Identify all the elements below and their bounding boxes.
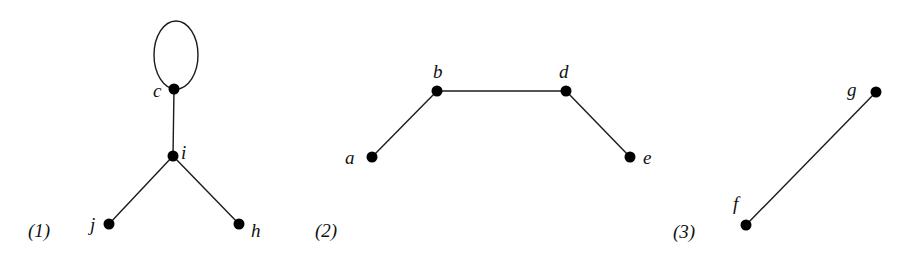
graph-1: c i j h (1) bbox=[28, 21, 261, 242]
node-label-d: d bbox=[559, 61, 569, 82]
edge-i-h bbox=[173, 156, 239, 224]
graph-label-2: (2) bbox=[315, 220, 337, 242]
node-label-f: f bbox=[733, 193, 741, 214]
edge-a-b bbox=[372, 91, 437, 157]
node-label-h: h bbox=[251, 220, 261, 241]
node-j bbox=[104, 219, 115, 230]
node-label-j: j bbox=[87, 214, 95, 235]
edge-f-g bbox=[746, 92, 876, 225]
node-a bbox=[367, 152, 378, 163]
node-label-i: i bbox=[181, 142, 186, 163]
node-label-e: e bbox=[643, 147, 651, 168]
edge-d-e bbox=[566, 91, 630, 157]
graph-diagram: c i j h (1) a b d e (2) f g (3) bbox=[0, 0, 905, 259]
edge-c-c-loop bbox=[154, 21, 198, 89]
graph-label-1: (1) bbox=[28, 220, 50, 242]
node-c bbox=[169, 84, 180, 95]
node-label-c: c bbox=[153, 80, 162, 101]
node-label-a: a bbox=[345, 147, 355, 168]
graph-3: f g (3) bbox=[673, 79, 882, 243]
edge-i-j bbox=[109, 156, 173, 224]
node-i bbox=[168, 151, 179, 162]
node-h bbox=[234, 219, 245, 230]
node-e bbox=[625, 152, 636, 163]
node-g bbox=[871, 87, 882, 98]
node-label-g: g bbox=[847, 79, 857, 100]
edge-c-i bbox=[173, 89, 174, 156]
node-d bbox=[561, 86, 572, 97]
node-f bbox=[741, 220, 752, 231]
graph-label-3: (3) bbox=[673, 221, 695, 243]
graph-2: a b d e (2) bbox=[315, 61, 651, 242]
node-b bbox=[432, 86, 443, 97]
node-label-b: b bbox=[433, 61, 443, 82]
